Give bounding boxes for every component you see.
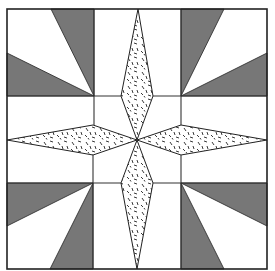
quilt-block-diagram xyxy=(0,0,275,271)
